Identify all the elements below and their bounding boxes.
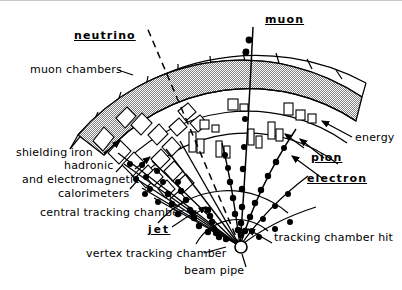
- beam-pipe-circle: [235, 241, 247, 253]
- label-jet: jet: [148, 223, 170, 236]
- label-calorimeters: calorimeters: [58, 187, 129, 200]
- label-energy: energy: [355, 131, 395, 144]
- label-central-tracking-chamber: central tracking chamber: [40, 206, 184, 219]
- label-tracking-chamber-hit: tracking chamber hit: [274, 231, 393, 244]
- label-electron: electron: [307, 172, 367, 185]
- label-and-electromagnetic: and electromagnetic: [22, 173, 140, 186]
- label-hadronic: hadronic: [64, 159, 113, 172]
- label-vertex-tracking-chamber: vertex tracking chamber: [86, 247, 227, 260]
- label-pion: pion: [311, 151, 342, 164]
- label-neutrino: neutrino: [74, 29, 136, 42]
- pion-track: [240, 129, 296, 246]
- energy-deposit-bars: [189, 99, 316, 158]
- leader-energy: [322, 121, 352, 137]
- label-muon-chambers: muon chambers: [30, 63, 122, 76]
- label-shielding-iron: shielding iron: [16, 146, 93, 159]
- label-muon: muon: [265, 13, 304, 26]
- leader-tracking-chamber-hit: [248, 229, 272, 243]
- detector-cross-section-figure: neutrino muon muon chambers energy pion …: [0, 0, 402, 290]
- label-beam-pipe: beam pipe: [184, 264, 244, 277]
